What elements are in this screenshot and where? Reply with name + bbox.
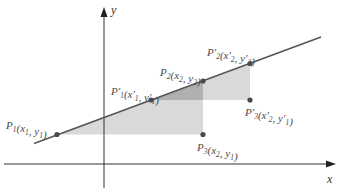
label-p3: P3(x2, y1) (196, 141, 238, 163)
point-p1 (54, 132, 59, 137)
point-p3 (200, 132, 205, 137)
label-p2: P2(x2, y2) (159, 66, 201, 88)
label-p1p: P′1(x′1, y′1) (110, 85, 159, 107)
y-axis-arrow-icon (101, 7, 108, 17)
label-p1: P1(x1, y1) (5, 119, 47, 141)
slope-diagram: x y P1(x1, y1)P′1(x′1, y′1)P2(x2, y2)P′2… (0, 0, 342, 193)
label-p2p: P′2(x′2, y′2) (206, 46, 255, 68)
point-p2 (200, 78, 205, 83)
label-p3p: P′3(x′2, y′1) (244, 106, 293, 128)
x-axis-arrow-icon (326, 161, 336, 168)
x-axis-label: x (326, 172, 333, 186)
y-axis-label: y (110, 3, 117, 17)
point-p3p (247, 97, 252, 102)
